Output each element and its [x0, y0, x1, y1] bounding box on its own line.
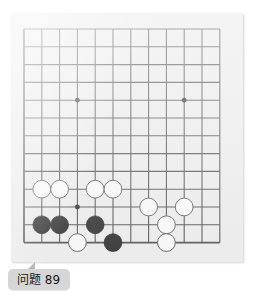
black-stone[interactable] [86, 216, 104, 234]
star-point [75, 98, 80, 103]
white-stone[interactable] [175, 198, 193, 216]
white-stone[interactable] [86, 180, 104, 198]
white-stone[interactable] [69, 234, 87, 252]
white-stone[interactable] [51, 180, 69, 198]
white-stone[interactable] [104, 180, 122, 198]
black-stone[interactable] [33, 216, 51, 234]
screenshot-root: 问题 89 [0, 0, 256, 296]
star-point [182, 98, 187, 103]
white-stone[interactable] [158, 234, 176, 252]
go-board-panel[interactable] [11, 13, 243, 262]
black-stone[interactable] [51, 216, 69, 234]
problem-caption-label: 问题 89 [17, 274, 60, 286]
white-stone[interactable] [33, 180, 51, 198]
black-stone[interactable] [104, 234, 122, 252]
white-stone[interactable] [140, 198, 158, 216]
white-stone[interactable] [158, 216, 176, 234]
star-point [75, 205, 80, 210]
problem-caption-badge[interactable]: 问题 89 [8, 269, 70, 290]
go-board-grid[interactable] [11, 13, 243, 262]
badge-corner-fold [28, 262, 35, 269]
